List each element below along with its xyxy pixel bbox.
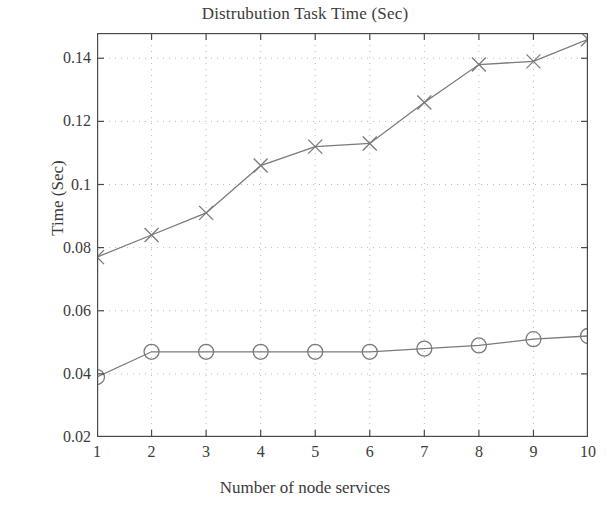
marker-cross <box>417 95 431 109</box>
x-axis-tick-labels: 12345678910 <box>97 443 588 469</box>
y-tick-label: 0.06 <box>31 302 91 320</box>
gridlines <box>97 33 588 437</box>
y-axis-tick-labels: 0.020.040.060.080.10.120.14 <box>27 33 91 437</box>
series-circle-series <box>97 329 588 385</box>
x-tick-label: 1 <box>77 443 117 461</box>
x-tick-label: 9 <box>513 443 553 461</box>
y-tick-label: 0.1 <box>31 176 91 194</box>
marker-cross <box>145 228 159 242</box>
axis-frame <box>98 34 588 437</box>
plot-svg <box>97 33 588 437</box>
x-tick-label: 8 <box>459 443 499 461</box>
x-tick-label: 10 <box>568 443 608 461</box>
series-cross-series <box>97 33 588 264</box>
chart-figure: Distrubution Task Time (Sec) Time (Sec) … <box>0 0 610 522</box>
x-tick-label: 6 <box>350 443 390 461</box>
axis-ticks <box>97 33 588 437</box>
x-tick-label: 4 <box>241 443 281 461</box>
y-tick-label: 0.14 <box>31 49 91 67</box>
marker-cross <box>199 206 213 220</box>
x-tick-label: 5 <box>295 443 335 461</box>
x-tick-label: 3 <box>186 443 226 461</box>
marker-cross <box>254 159 268 173</box>
series-line <box>97 336 588 377</box>
x-axis-label: Number of node services <box>0 478 610 498</box>
data-series-layer <box>97 33 588 385</box>
chart-title: Distrubution Task Time (Sec) <box>0 4 610 24</box>
y-tick-label: 0.04 <box>31 365 91 383</box>
plot-area <box>97 33 588 437</box>
x-tick-label: 7 <box>404 443 444 461</box>
series-line <box>97 39 588 257</box>
y-tick-label: 0.08 <box>31 239 91 257</box>
x-tick-label: 2 <box>132 443 172 461</box>
y-tick-label: 0.12 <box>31 112 91 130</box>
